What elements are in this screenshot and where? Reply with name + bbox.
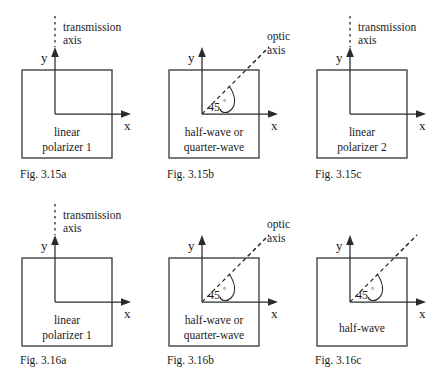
element-label-line1: half-wave or xyxy=(185,314,244,326)
figure-sheet: transmission axis y x linear polarizer 1… xyxy=(0,0,443,376)
y-axis-arrowhead xyxy=(51,47,59,57)
transmission-axis-label-line1: transmission xyxy=(63,209,121,221)
figure-caption: Fig. 3.16b xyxy=(167,354,214,367)
degree-symbol-label: ° xyxy=(371,286,374,295)
y-axis-arrowhead xyxy=(51,235,59,245)
optic-axis-label-line1: optic xyxy=(267,30,290,43)
angle-value-label: 45 xyxy=(208,100,220,114)
figure-drawing-3-16b: optic axis y x 45 ° half-wave or quarter… xyxy=(155,196,300,376)
y-axis-arrowhead xyxy=(346,47,354,57)
x-axis-label: x xyxy=(124,118,131,133)
figure-panel-3-16c: y x 45 ° half-wave Fig. 3.16c xyxy=(303,196,443,376)
x-axis-arrowhead xyxy=(121,110,131,118)
x-axis-arrowhead xyxy=(121,298,131,306)
transmission-axis-label-line2: axis xyxy=(358,34,377,46)
angle-value-label: 45 xyxy=(208,288,220,302)
figure-drawing-3-16c: y x 45 ° half-wave Fig. 3.16c xyxy=(303,196,443,376)
transmission-axis-label-line1: transmission xyxy=(63,21,121,33)
element-label-line1: half-wave or xyxy=(185,126,244,138)
figure-caption: Fig. 3.16c xyxy=(315,354,361,367)
angle-value-label: 45 xyxy=(356,288,368,302)
figure-caption: Fig. 3.15c xyxy=(315,168,361,181)
figure-caption: Fig. 3.16a xyxy=(20,354,66,367)
element-label-line2: polarizer 1 xyxy=(42,329,92,342)
figure-caption: Fig. 3.15b xyxy=(167,168,214,181)
element-label-line1: linear xyxy=(54,126,80,138)
optic-axis-label-line2: axis xyxy=(267,232,286,244)
degree-symbol-label: ° xyxy=(223,98,226,107)
y-axis-label: y xyxy=(336,238,343,253)
element-label-line1: linear xyxy=(349,126,375,138)
element-label-line2: polarizer 1 xyxy=(42,141,92,154)
y-axis-label: y xyxy=(41,238,48,253)
transmission-axis-label-line1: transmission xyxy=(358,21,416,33)
element-label-line1: linear xyxy=(54,314,80,326)
y-axis-arrowhead xyxy=(198,235,206,245)
figure-caption: Fig. 3.15a xyxy=(20,168,66,181)
y-axis-arrowhead xyxy=(198,47,206,57)
x-axis-arrowhead xyxy=(268,110,278,118)
x-axis-label: x xyxy=(271,306,278,321)
x-axis-arrowhead xyxy=(416,298,426,306)
figure-panel-3-15c: transmission axis y x linear polarizer 2… xyxy=(303,8,443,190)
x-axis-label: x xyxy=(271,118,278,133)
transmission-axis-label-line2: axis xyxy=(63,34,82,46)
x-axis-label: x xyxy=(124,306,131,321)
degree-symbol-label: ° xyxy=(223,286,226,295)
x-axis-label: x xyxy=(419,306,426,321)
figure-drawing-3-15b: optic axis y x 45 ° half-wave or quarter… xyxy=(155,8,300,190)
figure-panel-3-15a: transmission axis y x linear polarizer 1… xyxy=(8,8,148,190)
figure-panel-3-16a: transmission axis y x linear polarizer 1… xyxy=(8,196,148,376)
x-axis-arrowhead xyxy=(416,110,426,118)
figure-panel-3-15b: optic axis y x 45 ° half-wave or quarter… xyxy=(155,8,300,190)
element-label-line2: quarter-wave xyxy=(184,141,244,154)
element-label-line2: quarter-wave xyxy=(184,329,244,342)
figure-drawing-3-15c: transmission axis y x linear polarizer 2… xyxy=(303,8,443,190)
element-label-line2: polarizer 2 xyxy=(337,141,387,154)
y-axis-label: y xyxy=(188,50,195,65)
element-label-line1: half-wave xyxy=(339,322,385,334)
y-axis-label: y xyxy=(41,50,48,65)
optic-axis-label-line1: optic xyxy=(267,218,290,231)
x-axis-arrowhead xyxy=(268,298,278,306)
transmission-axis-label-line2: axis xyxy=(63,222,82,234)
y-axis-label: y xyxy=(336,50,343,65)
figure-drawing-3-16a: transmission axis y x linear polarizer 1… xyxy=(8,196,148,376)
x-axis-label: x xyxy=(419,118,426,133)
figure-panel-3-16b: optic axis y x 45 ° half-wave or quarter… xyxy=(155,196,300,376)
y-axis-arrowhead xyxy=(346,235,354,245)
y-axis-label: y xyxy=(188,238,195,253)
figure-drawing-3-15a: transmission axis y x linear polarizer 1… xyxy=(8,8,148,190)
optic-axis-label-line2: axis xyxy=(267,44,286,56)
